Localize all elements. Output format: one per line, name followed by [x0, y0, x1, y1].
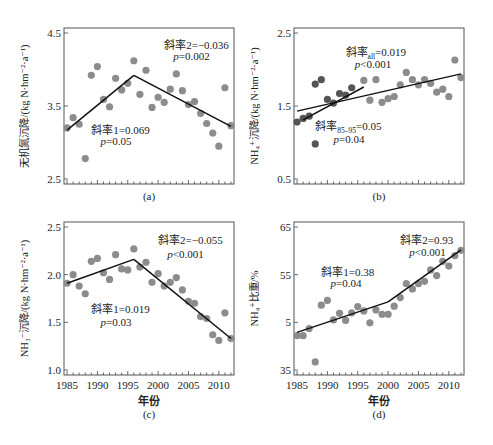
data-point	[136, 91, 143, 98]
slope-annotation: p=0.05	[99, 135, 131, 147]
data-point	[342, 317, 349, 324]
x-tick-label: 1990	[86, 379, 109, 391]
x-tick-label: 2000	[377, 379, 400, 391]
data-point	[391, 93, 398, 100]
data-point	[324, 297, 331, 304]
slope-annotation: p<0.001	[408, 246, 445, 258]
data-point	[421, 278, 428, 285]
data-point	[124, 266, 131, 273]
y-tick-label: 2.5	[277, 27, 291, 39]
panel-caption: (d)	[373, 408, 386, 421]
data-point	[215, 143, 222, 150]
x-tick-label: 2000	[147, 379, 170, 391]
panel-caption: (a)	[143, 190, 156, 203]
y-tick-label: 65	[280, 221, 292, 233]
data-point	[360, 77, 367, 84]
data-point	[82, 290, 89, 297]
y-tick-label: 3.5	[47, 100, 61, 112]
data-point	[324, 96, 331, 103]
figure: 2.53.54.5(a)无机氮沉降/(kg N·hm⁻²·a⁻¹)斜率1=0.0…	[0, 0, 493, 445]
y-tick-label: 2.5	[47, 173, 61, 185]
fit-line	[134, 75, 231, 126]
slope-annotation: 斜率2=−0.055	[158, 233, 223, 246]
y-axis-title: NH₃⁻沉降/(kg N·hm⁻²·a⁻¹)	[18, 239, 31, 357]
data-point	[293, 118, 300, 125]
data-point	[366, 319, 373, 326]
fit-line	[134, 259, 231, 338]
x-axis-title: 年份	[138, 394, 161, 408]
x-tick-label: 1990	[316, 379, 339, 391]
data-point	[312, 81, 319, 88]
data-point	[179, 286, 186, 293]
y-axis-title: NH₄⁺比重/%	[248, 270, 260, 326]
y-tick-label: 2.5	[47, 221, 61, 233]
data-point	[106, 276, 113, 283]
slope-annotation: p<0.001	[354, 58, 391, 70]
data-point	[112, 75, 119, 82]
panel-caption: (b)	[373, 190, 386, 203]
data-point	[94, 255, 101, 262]
y-axis-title: NH₄⁺沉降/(kg N·hm⁻²·a⁻¹)	[248, 47, 261, 165]
data-point	[88, 72, 95, 79]
data-point	[348, 84, 355, 91]
data-point	[82, 155, 89, 162]
panel-c-nh3-deposition: 1.01.52.02.5198519901995200020052010年份(c…	[18, 221, 235, 421]
data-point	[173, 70, 180, 77]
x-tick-label: 1995	[117, 379, 140, 391]
y-tick-label: 5	[286, 316, 292, 328]
data-point	[433, 272, 440, 279]
data-point	[439, 86, 446, 93]
data-point	[148, 104, 155, 111]
data-point	[70, 114, 77, 121]
x-tick-label: 2005	[407, 379, 430, 391]
data-point	[191, 300, 198, 307]
data-point	[300, 332, 307, 339]
data-point	[94, 63, 101, 70]
data-point	[372, 76, 379, 83]
panel-caption: (c)	[143, 408, 156, 421]
data-point	[451, 56, 458, 63]
data-point	[130, 57, 137, 64]
x-tick-label: 1995	[347, 379, 370, 391]
data-point	[391, 303, 398, 310]
x-tick-label: 2005	[177, 379, 200, 391]
data-point	[148, 279, 155, 286]
data-point	[336, 310, 343, 317]
x-tick-label: 2010	[208, 379, 231, 391]
data-point	[142, 259, 149, 266]
slope-annotation: p=0.002	[172, 50, 209, 62]
data-point	[142, 67, 149, 74]
data-point	[312, 358, 319, 365]
x-tick-label: 2010	[438, 379, 461, 391]
panel-b-nh4-deposition: 0.51.52.5(b)NH₄⁺沉降/(kg N·hm⁻²·a⁻¹)斜率all=…	[248, 27, 465, 203]
data-point	[312, 140, 319, 147]
data-point	[155, 94, 162, 101]
data-point	[179, 87, 186, 94]
x-tick-label: 1985	[56, 379, 79, 391]
data-point	[221, 84, 228, 91]
data-point	[173, 274, 180, 281]
data-point	[215, 337, 222, 344]
data-point	[167, 86, 174, 93]
y-tick-label: 35	[280, 364, 292, 376]
y-axis-title: 无机氮沉降/(kg N·hm⁻²·a⁻¹)	[18, 44, 31, 168]
data-point	[354, 303, 361, 310]
data-point	[203, 120, 210, 127]
slope-annotation: p<0.001	[166, 248, 203, 260]
data-point	[385, 311, 392, 318]
data-point	[76, 283, 83, 290]
data-point	[118, 265, 125, 272]
data-point	[106, 103, 113, 110]
data-point	[112, 251, 119, 258]
data-point	[191, 98, 198, 105]
fit-line	[67, 75, 134, 130]
y-tick-label: 4.5	[47, 27, 61, 39]
slope-annotation: 斜率1=0.019	[91, 302, 150, 315]
data-point	[445, 93, 452, 100]
data-point	[167, 279, 174, 286]
y-tick-label: 0.5	[277, 173, 291, 185]
slope-annotation: p=0.04	[332, 133, 364, 145]
data-point	[336, 90, 343, 97]
data-point	[209, 331, 216, 338]
data-point	[161, 99, 168, 106]
